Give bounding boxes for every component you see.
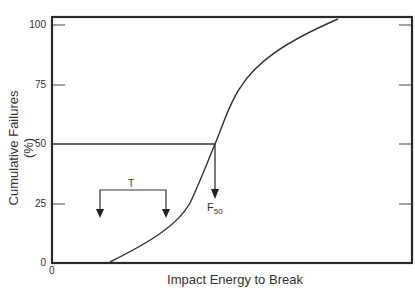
right-axis-ticks <box>399 25 411 204</box>
cumulative-failure-chart: 100 75 50 25 0 0 Cumulative Failures (%)… <box>0 0 415 303</box>
t-bracket <box>100 190 166 211</box>
f50-arrow-head <box>211 189 219 199</box>
y-tick-100: 100 <box>22 20 46 30</box>
plot-area <box>0 0 415 303</box>
f50-subscript: 50 <box>214 207 223 216</box>
t-label: T <box>128 178 134 189</box>
x-tick-0: 0 <box>49 266 55 276</box>
cumulative-failure-curve <box>110 19 338 262</box>
t-right-arrow-head <box>162 209 170 218</box>
y-tick-0: 0 <box>22 258 46 268</box>
t-left-arrow-head <box>96 209 104 218</box>
y-axis-ticks <box>53 25 65 204</box>
y-axis-label: Cumulative Failures (%) <box>6 83 36 213</box>
f50-label: F50 <box>207 201 223 216</box>
f50-main: F <box>207 201 214 213</box>
plot-frame <box>52 17 412 263</box>
x-axis-label: Impact Energy to Break <box>120 272 350 287</box>
